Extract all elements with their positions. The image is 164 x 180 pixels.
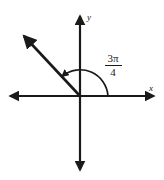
x-axis-label: x (148, 83, 153, 93)
terminal-ray (24, 36, 80, 96)
y-axis-label: y (86, 12, 91, 22)
angle-diagram-figure: y x 3π 4 (0, 0, 164, 180)
angle-measure-label: 3π 4 (103, 51, 123, 79)
angle-label-numerator: 3π (106, 53, 119, 65)
coordinate-plane-svg: y x (0, 0, 164, 180)
angle-label-denominator: 4 (109, 66, 117, 78)
